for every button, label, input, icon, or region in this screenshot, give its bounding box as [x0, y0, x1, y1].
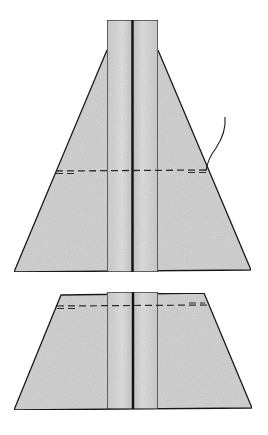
lower-piece: [14, 292, 252, 410]
upper-piece: [14, 20, 251, 272]
thread-tail: [206, 117, 225, 171]
sewing-diagram: [0, 0, 268, 435]
